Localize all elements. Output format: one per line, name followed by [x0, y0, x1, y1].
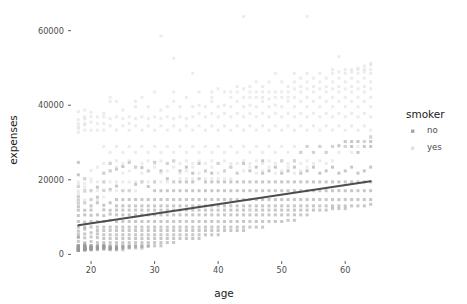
data-point [242, 209, 245, 212]
data-point [344, 96, 347, 99]
data-point [159, 159, 162, 162]
data-point [255, 220, 258, 223]
data-point [134, 244, 137, 247]
data-point [287, 169, 290, 172]
data-point [210, 112, 213, 115]
data-point [210, 166, 213, 169]
data-point [172, 159, 175, 162]
data-point [312, 85, 315, 88]
data-point [363, 204, 366, 207]
data-point [147, 226, 150, 229]
data-point [96, 232, 99, 235]
data-point [140, 198, 143, 201]
data-point [331, 145, 334, 148]
data-point [331, 68, 334, 71]
data-point [337, 124, 340, 127]
data-point [166, 145, 169, 148]
data-point [109, 241, 112, 244]
data-point [223, 151, 226, 154]
data-point [369, 72, 372, 75]
data-point [229, 162, 232, 165]
data-point [96, 226, 99, 229]
data-point [223, 90, 226, 93]
data-point [312, 198, 315, 201]
data-point [83, 177, 86, 180]
data-point [115, 204, 118, 207]
data-point [229, 105, 232, 108]
legend-key-yes [411, 147, 414, 150]
data-point [337, 189, 340, 192]
data-point [96, 201, 99, 204]
data-point [77, 122, 80, 125]
data-point [90, 231, 93, 234]
data-point [159, 220, 162, 223]
data-point [242, 169, 245, 172]
data-point [147, 124, 150, 127]
data-point [217, 177, 220, 180]
data-point [318, 209, 321, 212]
data-point [128, 129, 131, 132]
data-point [147, 198, 150, 201]
data-point [77, 110, 80, 113]
data-point [185, 151, 188, 154]
data-point [172, 233, 175, 236]
data-point [217, 189, 220, 192]
data-point [217, 172, 220, 175]
data-point [128, 204, 131, 207]
data-point [293, 115, 296, 118]
data-point [204, 105, 207, 108]
data-point [363, 71, 366, 74]
data-point [134, 198, 137, 201]
data-point [198, 213, 201, 216]
data-point [248, 209, 251, 212]
data-point [153, 115, 156, 118]
data-point [198, 104, 201, 107]
data-point [159, 180, 162, 183]
data-point [280, 213, 283, 216]
data-point [274, 189, 277, 192]
data-point [236, 180, 239, 183]
data-point [115, 145, 118, 148]
data-point [210, 220, 213, 223]
data-point [147, 180, 150, 183]
data-point [229, 115, 232, 118]
data-point [261, 189, 264, 192]
data-point [115, 237, 118, 240]
chart-figure: 2030405060 0200004000060000 age expenses… [0, 0, 467, 304]
data-point [229, 189, 232, 192]
data-point [83, 115, 86, 118]
data-point [274, 209, 277, 212]
data-point [293, 96, 296, 99]
data-point [248, 166, 251, 169]
data-point [166, 129, 169, 132]
data-point [274, 72, 277, 75]
data-point [172, 180, 175, 183]
data-point [236, 100, 239, 103]
data-point [306, 145, 309, 148]
data-point [280, 220, 283, 223]
data-point [179, 172, 182, 175]
data-point [299, 169, 302, 172]
data-point [204, 177, 207, 180]
data-point [369, 189, 372, 192]
data-point [198, 177, 201, 180]
data-point [115, 100, 118, 103]
data-point [179, 145, 182, 148]
data-point [325, 77, 328, 80]
data-point [299, 90, 302, 93]
data-point [210, 151, 213, 154]
data-point [90, 235, 93, 238]
data-point [185, 220, 188, 223]
data-point [267, 145, 270, 148]
data-point [96, 115, 99, 118]
data-point [356, 87, 359, 90]
data-point [337, 204, 340, 207]
data-point [102, 145, 105, 148]
data-point [344, 80, 347, 83]
data-point [267, 213, 270, 216]
data-point [261, 169, 264, 172]
data-point [204, 189, 207, 192]
data-point [140, 220, 143, 223]
data-point [191, 180, 194, 183]
data-point [369, 80, 372, 83]
